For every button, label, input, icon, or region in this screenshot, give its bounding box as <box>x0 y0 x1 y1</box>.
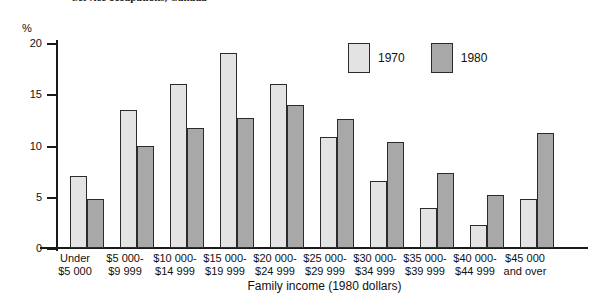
bar-group <box>70 43 104 248</box>
y-axis-unit-label: % <box>22 22 32 34</box>
legend-label-1980: 1980 <box>461 51 488 65</box>
bar-1970-10[interactable] <box>520 199 537 248</box>
bar-1970-5[interactable] <box>270 84 287 248</box>
legend-item-1980[interactable]: 1980 <box>431 43 488 73</box>
bar-1980-6[interactable] <box>337 119 354 248</box>
category-line: and over <box>496 265 554 278</box>
bar-1980-8[interactable] <box>437 173 454 248</box>
bar-1980-10[interactable] <box>537 133 554 248</box>
bar-group <box>470 43 504 248</box>
bar-group <box>520 43 554 248</box>
legend-item-1970[interactable]: 1970 <box>348 43 405 73</box>
bar-group <box>220 43 254 248</box>
bar-group <box>170 43 204 248</box>
bar-1970-9[interactable] <box>470 225 487 248</box>
legend-swatch-1980 <box>431 43 453 73</box>
plot-area: 05101520 <box>56 43 586 248</box>
y-axis-tick-label: 20 <box>30 38 42 48</box>
bar-group <box>120 43 154 248</box>
legend-label-1970: 1970 <box>378 51 405 65</box>
bar-1980-1[interactable] <box>87 199 104 248</box>
y-axis-tick-label: 10 <box>30 141 42 151</box>
bar-1970-2[interactable] <box>120 110 137 248</box>
bar-1980-3[interactable] <box>187 128 204 248</box>
bar-1980-2[interactable] <box>137 146 154 249</box>
bar-1970-7[interactable] <box>370 181 387 248</box>
bar-1980-4[interactable] <box>237 118 254 248</box>
bar-group <box>320 43 354 248</box>
bar-1970-4[interactable] <box>220 53 237 248</box>
y-axis-tick: 0 <box>47 248 58 250</box>
y-axis-tick-label: 5 <box>36 192 42 202</box>
y-axis-tick-label: 0 <box>36 243 42 253</box>
bar-1970-1[interactable] <box>70 176 87 248</box>
chart-legend: 19701980 <box>348 43 513 73</box>
x-axis-category-labels: Under$5 000$5 000-$9 999$10 000-$14 999$… <box>56 252 586 282</box>
bar-group <box>420 43 454 248</box>
x-axis-category-label: $45 000and over <box>496 252 554 278</box>
bar-group <box>270 43 304 248</box>
bar-1970-6[interactable] <box>320 137 337 248</box>
chart-title-clipped: Service occupations, Canada <box>72 0 332 3</box>
y-axis-tick-label: 15 <box>30 89 42 99</box>
chart-title-text: Service occupations, Canada <box>72 0 332 3</box>
bar-1980-9[interactable] <box>487 195 504 248</box>
x-axis-title: Family income (1980 dollars) <box>0 279 593 293</box>
category-line: $45 000 <box>496 252 554 265</box>
bar-1980-7[interactable] <box>387 142 404 248</box>
bar-group <box>370 43 404 248</box>
bar-series-container <box>56 43 586 248</box>
bar-1970-3[interactable] <box>170 84 187 248</box>
bar-1980-5[interactable] <box>287 105 304 249</box>
bar-1970-8[interactable] <box>420 208 437 248</box>
legend-swatch-1970 <box>348 43 370 73</box>
